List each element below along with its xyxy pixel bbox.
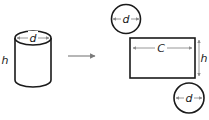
cylinder-height-label: h	[2, 54, 9, 67]
cylinder: d h	[2, 31, 51, 87]
cylinder-diameter-label: d	[30, 32, 38, 45]
net-height-label: h	[201, 52, 208, 65]
net-top-diameter-label: d	[123, 13, 131, 26]
cylinder-net: d C h d	[112, 5, 208, 114]
net-bottom-diameter-label: d	[186, 92, 194, 105]
cylinder-net-diagram: d h d C h d	[0, 0, 209, 120]
net-circumference-label: C	[157, 42, 165, 55]
